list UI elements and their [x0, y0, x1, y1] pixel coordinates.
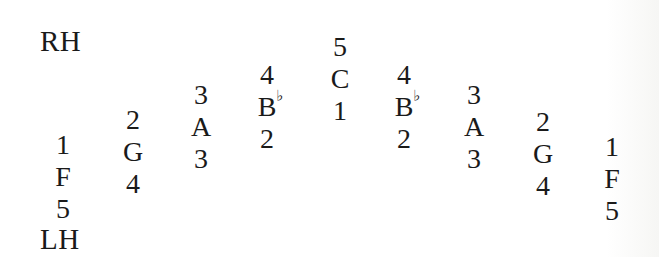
note-column: 1F5 [592, 131, 632, 227]
note-letter: A [191, 111, 211, 142]
note-letter: G [533, 138, 553, 169]
note-name: C [331, 63, 350, 95]
flat-icon: ♭ [413, 89, 420, 104]
right-hand-finger: 3 [194, 79, 208, 111]
left-hand-finger: 5 [56, 193, 70, 225]
note-column: 1F5 [43, 129, 83, 225]
fingering-diagram: RH LH 1F52G43A34B♭25C14B♭23A32G41F5 [0, 0, 659, 257]
note-letter: B♭ [258, 91, 277, 122]
note-name: B♭ [395, 91, 414, 123]
right-hand-finger: 1 [605, 131, 619, 163]
note-column: 2G4 [113, 104, 153, 200]
note-letter: A [464, 111, 484, 142]
left-hand-finger: 2 [397, 123, 411, 155]
right-hand-finger: 5 [333, 31, 347, 63]
note-name: G [533, 138, 553, 170]
note-name: A [191, 111, 211, 143]
right-hand-label: RH [40, 27, 81, 56]
left-hand-finger: 2 [260, 123, 274, 155]
note-column: 3A3 [454, 79, 494, 175]
right-hand-finger: 2 [536, 106, 550, 138]
right-hand-finger: 2 [126, 104, 140, 136]
left-hand-label: LH [40, 225, 80, 254]
flat-icon: ♭ [276, 89, 283, 104]
note-name: G [123, 136, 143, 168]
right-hand-finger: 1 [56, 129, 70, 161]
note-letter: F [55, 161, 71, 192]
note-name: F [55, 161, 71, 193]
left-hand-finger: 1 [333, 95, 347, 127]
note-letter: B♭ [395, 91, 414, 122]
note-column: 4B♭2 [247, 59, 287, 155]
left-hand-finger: 4 [126, 168, 140, 200]
left-hand-finger: 3 [467, 143, 481, 175]
right-hand-finger: 4 [397, 59, 411, 91]
left-hand-finger: 4 [536, 170, 550, 202]
note-column: 4B♭2 [384, 59, 424, 155]
right-hand-finger: 3 [467, 79, 481, 111]
note-column: 2G4 [523, 106, 563, 202]
right-hand-finger: 4 [260, 59, 274, 91]
note-column: 3A3 [181, 79, 221, 175]
note-name: F [604, 163, 620, 195]
note-column: 5C1 [320, 31, 360, 127]
note-letter: G [123, 136, 143, 167]
note-letter: C [331, 63, 350, 94]
note-name: B♭ [258, 91, 277, 123]
left-hand-finger: 3 [194, 143, 208, 175]
left-hand-finger: 5 [605, 195, 619, 227]
note-name: A [464, 111, 484, 143]
note-letter: F [604, 163, 620, 194]
